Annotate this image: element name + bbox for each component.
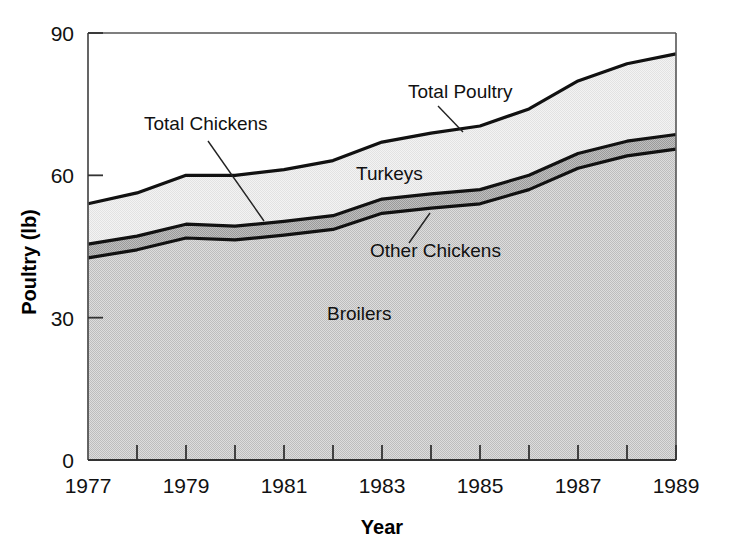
y-tick-label-30: 30 <box>51 307 74 330</box>
series-label-broilers: Broilers <box>327 303 391 324</box>
x-tick-label-1985: 1985 <box>457 474 504 497</box>
x-tick-label-1983: 1983 <box>359 474 406 497</box>
poultry-consumption-area-chart: 0306090 1977197919811983198519871989 Pou… <box>0 0 735 548</box>
x-axis-tick-labels: 1977197919811983198519871989 <box>65 474 700 497</box>
series-label-total-poultry: Total Poultry <box>408 81 513 102</box>
y-tick-label-90: 90 <box>51 22 74 45</box>
x-tick-label-1979: 1979 <box>163 474 210 497</box>
chart-canvas: 0306090 1977197919811983198519871989 Pou… <box>0 0 735 548</box>
x-tick-label-1981: 1981 <box>261 474 308 497</box>
y-axis-tick-labels: 0306090 <box>51 22 74 472</box>
x-tick-label-1989: 1989 <box>653 474 700 497</box>
x-tick-label-1987: 1987 <box>555 474 602 497</box>
x-tick-label-1977: 1977 <box>65 474 112 497</box>
series-label-turkeys: Turkeys <box>356 163 423 184</box>
y-tick-label-0: 0 <box>62 449 74 472</box>
x-axis-title: Year <box>361 516 403 538</box>
series-label-other-chickens: Other Chickens <box>370 240 501 261</box>
y-tick-label-60: 60 <box>51 164 74 187</box>
series-label-total-chickens: Total Chickens <box>144 113 268 134</box>
y-axis-title: Poultry (lb) <box>18 209 40 315</box>
